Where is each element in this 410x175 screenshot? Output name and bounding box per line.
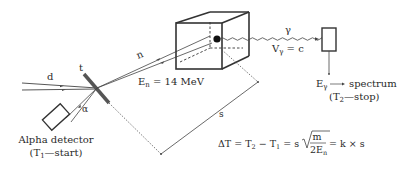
alpha-detector [42, 104, 69, 130]
interaction-point [213, 35, 220, 42]
alpha-label: α [82, 104, 88, 114]
deuteron-label: d [47, 71, 54, 82]
gamma-ray-path [220, 38, 323, 41]
beam-arrow-icon [62, 90, 66, 92]
alpha-detector-label: Alpha detector [17, 134, 93, 145]
neutron-label: n [135, 48, 146, 61]
diagram-canvas: d t n En = 14 MeV γ Vγ = c Eγ spectrum [0, 0, 410, 175]
start-label: (T1—start) [30, 147, 83, 160]
spectrum-arrow-icon [342, 83, 345, 86]
beam-arrow-icon [60, 86, 64, 88]
fraction-numerator: m [312, 131, 321, 142]
neutron-arrow-icon [156, 58, 160, 61]
distance-label: s [219, 109, 224, 119]
spectrum-label: spectrum [349, 78, 397, 89]
deuteron-beam [22, 83, 97, 91]
equation-lhs: ΔT = T2 − T1 = s [218, 138, 299, 151]
stop-label: (T2—stop) [329, 91, 380, 104]
cable-end-dot [328, 73, 330, 75]
gamma-detector [322, 28, 336, 51]
distance-endpoint [160, 153, 162, 155]
equation-rhs: = k × s [329, 138, 365, 149]
fraction-denominator: 2En [310, 144, 327, 157]
time-of-flight-equation: ΔT = T2 − T1 = s m 2En = k × s [218, 131, 365, 157]
distance-endpoint [257, 81, 259, 83]
target-label: t [79, 62, 83, 73]
neutron-energy-label: En = 14 MeV [138, 76, 205, 89]
alpha-axis-extension [109, 103, 161, 154]
gamma-label: γ [285, 24, 291, 35]
gamma-velocity-label: Vγ = c [271, 43, 304, 56]
gamma-energy-label: Eγ [316, 78, 328, 91]
